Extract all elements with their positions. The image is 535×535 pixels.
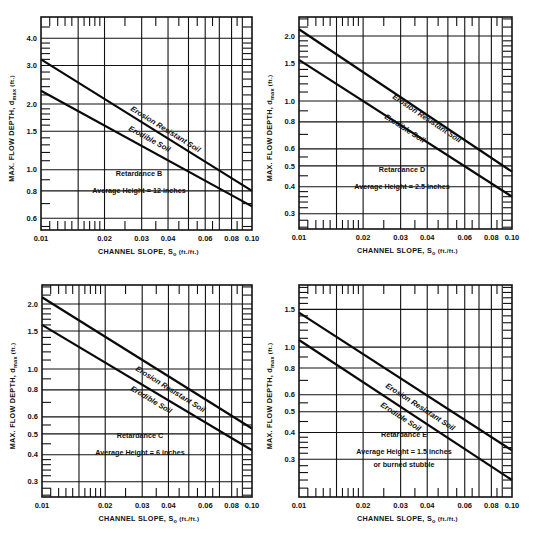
y-tick-label: 1.5 — [27, 127, 37, 136]
y-tick-label: 0.8 — [27, 187, 37, 196]
erosion-resistant-soil-curve — [42, 297, 252, 428]
y-tick-label: 2.0 — [27, 100, 37, 109]
y-axis-label: MAX. FLOW DEPTH, dmax (ft.) — [265, 75, 275, 182]
x-tick-label: 0.06 — [457, 233, 472, 242]
x-tick-label: 0.04 — [420, 233, 435, 242]
y-tick-label: 4.0 — [27, 34, 37, 43]
x-tick-label: 0.10 — [505, 233, 520, 242]
chart-panel-3: 0.30.40.50.60.81.01.50.010.020.030.040.0… — [265, 285, 519, 524]
y-tick-label: 0.6 — [285, 390, 295, 399]
chart-canvas: 0.60.81.01.52.03.04.00.010.020.030.040.0… — [0, 0, 535, 535]
y-tick-label: 0.8 — [28, 385, 38, 394]
x-tick-label: 0.03 — [393, 501, 408, 510]
y-tick-label: 0.4 — [28, 450, 39, 459]
y-tick-label: 1.0 — [285, 343, 295, 352]
x-tick-label: 0.10 — [245, 501, 260, 510]
x-tick-label: 0.04 — [420, 501, 435, 510]
x-tick-label: 0.10 — [505, 501, 520, 510]
y-axis-label: MAX. FLOW DEPTH, dmax (ft.) — [7, 75, 17, 182]
x-tick-label: 0.10 — [245, 234, 260, 243]
x-tick-label: 0.03 — [134, 234, 149, 243]
x-tick-label: 0.01 — [292, 501, 307, 510]
y-tick-label: 0.5 — [28, 430, 38, 439]
average-height-label: Average Height = 6 inches — [95, 448, 184, 457]
retardance-class-label: Retardance B — [116, 169, 162, 178]
y-tick-label: 0.3 — [285, 455, 295, 464]
y-tick-label: 0.8 — [285, 364, 295, 373]
x-tick-label: 0.01 — [35, 501, 50, 510]
y-tick-label: 2.0 — [285, 32, 295, 41]
x-axis-label: CHANNEL SLOPE, So (ft./ft.) — [357, 514, 458, 524]
y-tick-label: 0.3 — [28, 477, 38, 486]
x-tick-label: 0.08 — [484, 233, 499, 242]
y-axis-label: MAX. FLOW DEPTH, dmax (ft.) — [265, 343, 275, 450]
y-tick-label: 0.5 — [285, 162, 295, 171]
y-tick-label: 1.5 — [285, 59, 295, 68]
y-tick-label: 1.0 — [27, 165, 37, 174]
x-axis-label: CHANNEL SLOPE, So (ft./ft.) — [357, 246, 458, 256]
x-tick-label: 0.08 — [224, 234, 239, 243]
x-tick-label: 0.08 — [224, 501, 239, 510]
y-tick-label: 1.0 — [28, 365, 38, 374]
retardance-class-label: Retardance D — [379, 165, 425, 174]
average-height-label: Average Height = 12 inches — [92, 186, 185, 195]
y-tick-label: 0.8 — [285, 117, 295, 126]
y-tick-label: 2.0 — [28, 300, 38, 309]
average-height-label: Average Height = 1.5 inches — [356, 447, 451, 456]
y-tick-label: 0.4 — [285, 182, 296, 191]
x-tick-label: 0.06 — [198, 234, 213, 243]
y-axis-label: MAX. FLOW DEPTH, dmax (ft.) — [8, 343, 18, 450]
x-tick-label: 0.01 — [34, 234, 49, 243]
x-axis-label: CHANNEL SLOPE, So (ft./ft.) — [99, 514, 200, 524]
retardance-class-label: Retardance E — [381, 430, 427, 439]
x-tick-label: 0.02 — [97, 234, 112, 243]
x-tick-label: 0.04 — [161, 501, 176, 510]
average-height-label: or burned stubble — [373, 460, 434, 469]
chart-panel-1: 0.30.40.50.60.81.01.52.00.010.020.030.04… — [265, 17, 519, 256]
x-tick-label: 0.02 — [356, 233, 371, 242]
x-tick-label: 0.02 — [356, 501, 371, 510]
y-tick-label: 1.0 — [285, 97, 295, 106]
average-height-label: Average Height = 2.5 inches — [354, 182, 449, 191]
x-tick-label: 0.06 — [457, 501, 472, 510]
x-tick-label: 0.03 — [393, 233, 408, 242]
retardance-class-label: Retardance C — [117, 431, 163, 440]
y-tick-label: 0.6 — [285, 144, 295, 153]
chart-panel-2: 0.30.40.50.60.81.01.52.00.010.020.030.04… — [8, 285, 259, 524]
x-tick-label: 0.01 — [292, 233, 307, 242]
x-tick-label: 0.08 — [484, 501, 499, 510]
x-tick-label: 0.06 — [198, 501, 213, 510]
plot-frame — [41, 17, 252, 230]
chart-panel-0: 0.60.81.01.52.03.04.00.010.020.030.040.0… — [7, 17, 259, 257]
x-tick-label: 0.02 — [98, 501, 113, 510]
y-tick-label: 3.0 — [27, 61, 37, 70]
y-tick-label: 1.5 — [285, 305, 295, 314]
y-tick-label: 0.3 — [285, 209, 295, 218]
y-tick-label: 0.6 — [27, 214, 37, 223]
x-tick-label: 0.04 — [161, 234, 176, 243]
y-tick-label: 0.4 — [285, 428, 296, 437]
y-tick-label: 1.5 — [28, 327, 38, 336]
x-axis-label: CHANNEL SLOPE, So (ft./ft.) — [98, 247, 199, 257]
y-tick-label: 0.6 — [28, 412, 38, 421]
y-tick-label: 0.5 — [285, 407, 295, 416]
x-tick-label: 0.03 — [135, 501, 150, 510]
